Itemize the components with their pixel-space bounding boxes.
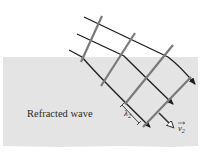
- refracting-medium: [3, 57, 198, 147]
- refracted-wave-label: Refracted wave: [27, 108, 93, 119]
- wavefront-1: [81, 16, 102, 62]
- refraction-diagram: Refracted wave λ2 v2: [0, 0, 204, 156]
